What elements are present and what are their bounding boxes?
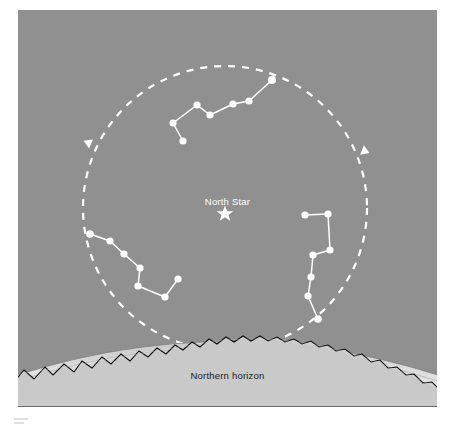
star-dot [229, 100, 236, 107]
star-dot [169, 119, 176, 126]
star-dot [179, 137, 186, 144]
star-dot [134, 282, 141, 289]
star-dot [326, 246, 333, 253]
northern-horizon-label: Northern horizon [18, 370, 437, 381]
star-dot [245, 97, 252, 104]
star-dot [136, 264, 143, 271]
north-star-label: North Star [18, 196, 437, 207]
star-dot [309, 251, 316, 258]
star-dot [106, 237, 113, 244]
page-corner-mark [14, 418, 28, 425]
star-dot [314, 315, 322, 323]
star-dot [324, 210, 331, 217]
star-dot [174, 275, 181, 282]
sky-panel: North Star Northern horizon [18, 10, 437, 407]
star-dot [120, 250, 127, 257]
star-dot [301, 211, 308, 218]
star-dot [193, 101, 200, 108]
star-dot [268, 76, 276, 84]
star-dot [304, 292, 311, 299]
star-dot [307, 273, 314, 280]
sky-diagram [18, 10, 437, 407]
star-dot [161, 293, 168, 300]
star-dot [206, 111, 213, 118]
star-dot [86, 230, 94, 238]
star-chart-figure: North Star Northern horizon [0, 0, 450, 431]
